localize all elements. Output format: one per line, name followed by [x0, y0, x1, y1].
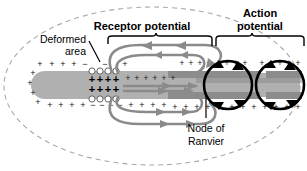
charge-plus: + — [251, 102, 256, 112]
charge-plus: + — [143, 73, 148, 83]
charge-plus: + — [58, 100, 63, 110]
charge-plus: + — [35, 97, 40, 107]
charge-plus: + — [71, 59, 76, 69]
charge-minus: − — [102, 59, 107, 69]
deformed-area-label-line1: Deformed — [40, 33, 86, 45]
charge-plus: + — [89, 83, 95, 95]
charge-minus: − — [99, 100, 104, 110]
action-potential-label-line2: potential — [237, 20, 283, 32]
charge-plus: + — [49, 59, 54, 69]
charge-plus: + — [125, 73, 130, 83]
charge-plus: + — [161, 100, 166, 110]
charge-minus: − — [82, 59, 87, 69]
top-charge-row: + + + + − − + — [37, 59, 127, 69]
charge-plus: + — [80, 100, 85, 110]
charge-plus: + — [60, 59, 65, 69]
deformed-area-leader — [89, 41, 100, 62]
deformed-inner-charges: + + + + + + + + — [89, 73, 119, 95]
charge-plus: + — [37, 59, 42, 69]
charge-plus: + — [113, 83, 119, 95]
charge-plus: + — [152, 73, 157, 83]
charge-plus: + — [224, 58, 229, 68]
charge-plus: + — [47, 100, 52, 110]
action-potential-bracket — [216, 33, 304, 46]
neuron-conduction-diagram: + + + + + + + + + + + + + + + + + + + + … — [0, 0, 307, 171]
charge-plus: + — [139, 100, 144, 110]
charge-plus: + — [179, 58, 184, 68]
charge-plus: + — [134, 73, 139, 83]
charge-plus: + — [172, 102, 177, 112]
charge-plus: + — [105, 83, 111, 95]
charge-plus: + — [188, 58, 193, 68]
deformed-area-label-line2: area — [65, 45, 86, 57]
node-of-ranvier-label-line1: Node of — [188, 122, 225, 134]
charge-plus: + — [97, 83, 103, 95]
charge-plus: + — [122, 59, 127, 69]
charge-plus: + — [170, 73, 175, 83]
node-of-ranvier-label-line2: Ranvier — [188, 135, 225, 147]
charge-plus: + — [277, 58, 282, 68]
figure-canvas: + + + + + + + + + + + + + + + + + + + + … — [0, 0, 307, 171]
charge-minus: − — [90, 100, 95, 110]
charge-plus: + — [27, 78, 32, 88]
charge-plus: + — [161, 73, 166, 83]
charge-plus: + — [30, 68, 35, 78]
charge-plus: + — [150, 100, 155, 110]
charge-plus: + — [128, 100, 133, 110]
charge-plus: + — [69, 100, 74, 110]
receptor-potential-label: Receptor potential — [94, 20, 191, 32]
action-potential-label-line1: Action — [243, 7, 278, 19]
